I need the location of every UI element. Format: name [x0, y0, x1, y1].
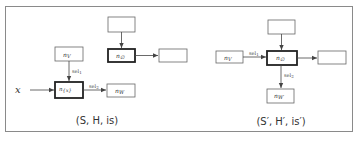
diagram-canvas: x nV n∅ sel1 n{x} sel2 nW (S, H, is) nV: [0, 0, 358, 147]
node-left-right: [159, 49, 187, 62]
edge-label-sel2-right: sel2: [284, 72, 294, 79]
caption-left: (S, H, is): [76, 115, 118, 126]
node-left-nempty-label: n∅: [116, 52, 125, 60]
node-right-nw-label: nW′: [274, 92, 285, 100]
edge-label-sel1-left: sel1: [72, 68, 82, 75]
caption-right: (S′, H′, is′): [256, 116, 305, 127]
left-graph: x nV n∅ sel1 n{x} sel2 nW (S, H, is): [15, 17, 187, 126]
node-left-top: [108, 17, 135, 32]
node-left-nx-label: n{x}: [59, 86, 72, 93]
edge-label-sel1-right: sel1: [249, 50, 259, 57]
right-graph: nV sel1 n∅ sel2 nW′ (S′, H′, is′): [216, 20, 346, 127]
edge-label-sel2-left: sel2: [89, 83, 99, 90]
node-right-nempty-label: n∅: [276, 54, 285, 62]
node-left-nw-label: nW: [115, 87, 125, 95]
node-right-right: [318, 51, 346, 64]
node-right-top: [268, 20, 295, 34]
input-label-x: x: [15, 84, 21, 95]
